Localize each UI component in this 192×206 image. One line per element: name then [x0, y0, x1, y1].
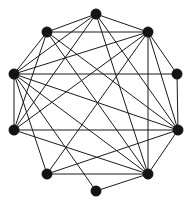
graph-vertex [42, 169, 52, 179]
graph-edge [148, 32, 178, 130]
graph-edge [14, 74, 96, 191]
graph-edge [148, 130, 178, 174]
graph-edge [148, 32, 177, 74]
graph-edge [14, 74, 47, 174]
graph-edge [47, 14, 96, 32]
graph-vertex [91, 186, 101, 196]
graph-vertex [9, 69, 19, 79]
graph-edge [14, 32, 148, 74]
graph-edge [47, 130, 178, 174]
graph-figure [0, 0, 192, 206]
graph-vertex [9, 125, 19, 135]
graph-vertex [173, 125, 183, 135]
graph-vertex [143, 27, 153, 37]
graph-edge [14, 130, 148, 174]
graph-edge [14, 74, 178, 130]
graph-edge [96, 14, 178, 130]
graph-vertex [143, 169, 153, 179]
graph-canvas [0, 0, 192, 206]
graph-edge [14, 74, 148, 174]
graph-vertex [91, 9, 101, 19]
graph-edge [177, 74, 178, 130]
graph-edge [96, 14, 148, 32]
graph-edge [96, 174, 148, 191]
graph-vertex [42, 27, 52, 37]
graph-vertex [172, 69, 182, 79]
edge-layer [14, 14, 178, 191]
